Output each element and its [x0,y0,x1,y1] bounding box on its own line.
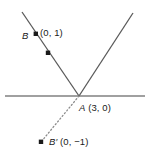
label-a-coordinate-text: (3, 0) [88,102,111,113]
label-b-prime: B′ (0, −1) [49,137,89,147]
label-b-prime-coordinate-text: (0, −1) [60,136,88,147]
label-b-coordinate: (0, 1) [40,28,63,38]
label-b: B [22,31,28,41]
reflected-ray-line [79,13,133,96]
point-marker-b-prime [39,140,43,144]
label-a: A (3, 0) [79,103,111,113]
label-b-coordinate-text: (0, 1) [40,27,63,38]
incident-ray-line [22,12,79,96]
label-b-text: B [22,30,28,41]
point-marker-midpoint [46,51,50,55]
point-marker-b [34,32,38,36]
geometry-figure: B (0, 1) A (3, 0) B′ (0, −1) [0,0,149,161]
